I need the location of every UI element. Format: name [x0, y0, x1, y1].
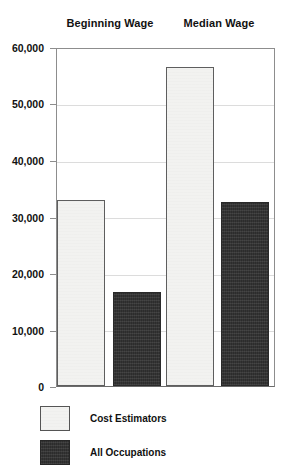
- y-tick-label-50000: 50,000: [0, 98, 44, 110]
- y-tick-label-20000: 20,000: [0, 268, 44, 280]
- legend-swatch-cost-estimators: [40, 406, 70, 431]
- legend-label-cost-estimators: Cost Estimators: [90, 413, 167, 424]
- bar-series: [57, 49, 274, 386]
- bar-median-wage-all-occupations: [221, 202, 269, 386]
- bar-beginning-wage-all-occupations: [113, 292, 161, 386]
- bar-chart: Beginning Wage Median Wage 60,000 50,000…: [0, 0, 296, 471]
- plot-area: [56, 48, 275, 387]
- legend-swatch-all-occupations: [40, 440, 70, 465]
- legend-label-all-occupations: All Occupations: [90, 447, 166, 458]
- legend: Cost Estimators All Occupations: [0, 400, 296, 471]
- y-tick-label-60000: 60,000: [0, 42, 44, 54]
- y-tick-mark-0: [50, 387, 56, 388]
- y-tick-label-40000: 40,000: [0, 155, 44, 167]
- y-tick-label-10000: 10,000: [0, 325, 44, 337]
- group-header-median-wage: Median Wage: [166, 17, 272, 29]
- y-tick-label-30000: 30,000: [0, 212, 44, 224]
- bar-median-wage-cost-estimators: [166, 67, 214, 386]
- bar-beginning-wage-cost-estimators: [57, 200, 105, 387]
- y-tick-label-0: 0: [0, 381, 44, 393]
- group-header-beginning-wage: Beginning Wage: [57, 17, 163, 29]
